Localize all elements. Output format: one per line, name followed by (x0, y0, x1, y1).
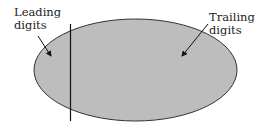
leading-digits-label: Leading digits (14, 6, 61, 32)
trailing-label-line2: digits (209, 24, 255, 37)
number-ellipse (34, 19, 237, 121)
digits-diagram: Leading digits Trailing digits (0, 0, 257, 128)
trailing-digits-label: Trailing digits (209, 11, 255, 37)
leading-label-line2: digits (14, 19, 61, 32)
